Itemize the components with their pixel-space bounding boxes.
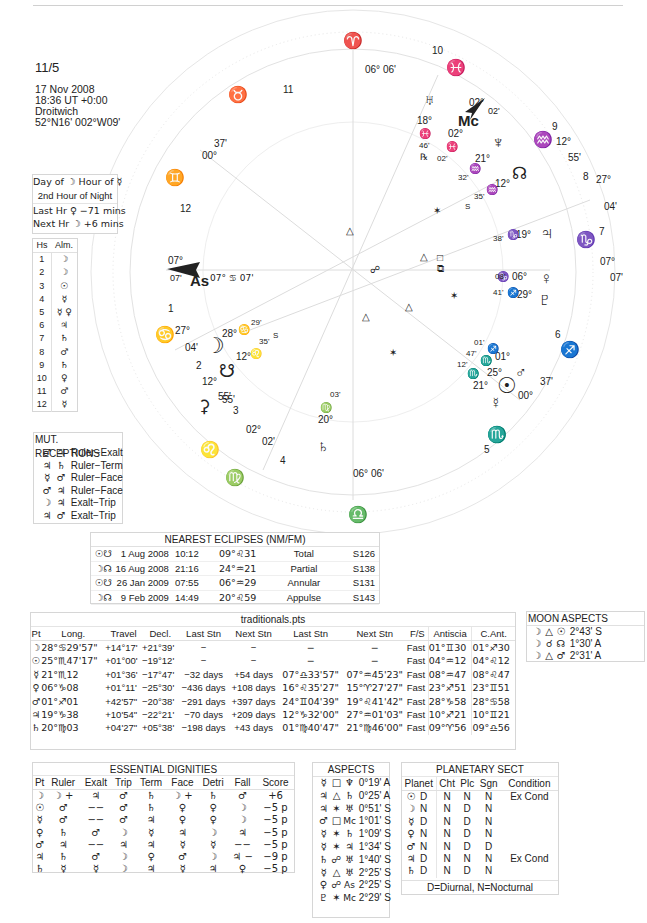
cell: N bbox=[436, 841, 458, 853]
svg-text:29°: 29° bbox=[517, 289, 532, 300]
svg-text:△: △ bbox=[346, 225, 354, 236]
moon-aspects-title: MOON ASPECTS bbox=[527, 612, 644, 626]
planet-glyph: ♃ bbox=[31, 708, 41, 721]
svg-text:35': 35' bbox=[259, 337, 270, 346]
cell: 10°♊21 bbox=[472, 708, 515, 721]
table-row: 2☽ bbox=[33, 266, 77, 279]
aspect-glyph: △ bbox=[543, 626, 555, 638]
aspect-orb: 2°25' S bbox=[359, 879, 391, 890]
aspect-glyph: □ bbox=[330, 777, 343, 790]
svg-text:00°: 00° bbox=[202, 150, 217, 161]
moon-aspects-panel: MOON ASPECTS ☽△☉ 2°43' S ☽☌☊ 1°30' A ☽△♂… bbox=[526, 611, 645, 662]
planet-glyph: ☿ bbox=[31, 668, 41, 681]
cell: ☽ bbox=[112, 827, 136, 839]
cell: +01°00' bbox=[105, 654, 142, 667]
svg-text:07°: 07° bbox=[168, 255, 183, 266]
svg-text:♒: ♒ bbox=[486, 183, 498, 196]
eclipses-title: NEAREST ECLIPSES (NM/FM) bbox=[91, 533, 379, 547]
eclipse-position: 20°♌59 bbox=[219, 590, 279, 605]
reception-type: Exalt−Trip bbox=[71, 510, 116, 521]
col-condition: Condition bbox=[501, 777, 558, 791]
svg-text:2: 2 bbox=[196, 360, 202, 371]
aspect-orb: 1°40' S bbox=[359, 854, 391, 865]
col-exalt: Exalt bbox=[80, 776, 111, 790]
cell: 15°♈27'27" bbox=[343, 681, 407, 694]
svg-text:♉: ♉ bbox=[228, 85, 248, 104]
svg-text:21°: 21° bbox=[473, 380, 488, 391]
svg-text:07° ♋ 07': 07° ♋ 07' bbox=[210, 273, 254, 283]
svg-text:7: 7 bbox=[599, 226, 605, 237]
cell: D bbox=[420, 865, 436, 877]
svg-text:♓: ♓ bbox=[419, 127, 431, 140]
planet-glyph: ♇ bbox=[317, 892, 330, 905]
svg-text:12°: 12° bbox=[236, 351, 251, 362]
svg-text:07': 07' bbox=[170, 273, 182, 283]
aspect-glyph: ☍ bbox=[330, 879, 343, 892]
cell: N bbox=[458, 791, 477, 804]
svg-text:21°: 21° bbox=[475, 153, 490, 164]
cell: N bbox=[477, 828, 501, 840]
col-term: Term bbox=[135, 776, 166, 790]
svg-text:✶: ✶ bbox=[389, 347, 397, 358]
table-row: ☉25°♏47'17"+01°00'−19°12'−−−−Fast04°♒120… bbox=[31, 654, 515, 667]
last-hour: Last Hr ♀ −71 mins bbox=[33, 203, 117, 217]
almuten-glyph: ♄ bbox=[51, 359, 77, 372]
svg-text:✶: ✶ bbox=[450, 290, 458, 301]
cell: N bbox=[436, 853, 458, 865]
cell: −32 days bbox=[179, 668, 229, 681]
svg-text:♇: ♇ bbox=[537, 288, 552, 310]
svg-text:△: △ bbox=[420, 251, 428, 262]
cell: D bbox=[458, 828, 477, 840]
cell: ♂ bbox=[112, 814, 136, 826]
table-row: ☿♂−−♂♃♀♀☽−5 p bbox=[33, 814, 294, 826]
planet-glyph: ♀ bbox=[402, 828, 420, 840]
table-row: 8♂ bbox=[33, 346, 77, 359]
cell: − bbox=[343, 654, 407, 667]
mutual-receptions-panel: MUT. RECEPTIONS ♂♃ Ruler−Exalt ♃♄ Ruler−… bbox=[33, 432, 123, 524]
list-item: ♄☍♅ 1°40' S bbox=[313, 854, 389, 867]
cell: −436 days bbox=[179, 681, 229, 694]
planet-glyph: ☿ bbox=[317, 828, 330, 841]
cell: D bbox=[458, 816, 477, 828]
cell: ♂ bbox=[46, 814, 80, 826]
planet-glyph: ♀ bbox=[31, 681, 41, 694]
aspect-glyph: ✶ bbox=[330, 828, 343, 841]
angle-label: Mc bbox=[343, 892, 356, 905]
svg-text:55': 55' bbox=[222, 394, 235, 405]
svg-text:♃: ♃ bbox=[540, 223, 554, 243]
svg-text:1: 1 bbox=[168, 303, 174, 314]
col-declination: Decl. bbox=[142, 627, 179, 641]
cell: 08°♌47 bbox=[472, 668, 515, 681]
svg-text:41': 41' bbox=[493, 288, 504, 297]
planet-glyph: ♃ bbox=[317, 803, 330, 816]
aspect-glyph: △ bbox=[330, 790, 343, 803]
svg-text:8: 8 bbox=[583, 171, 589, 182]
planet-glyph: ♂ bbox=[54, 510, 68, 523]
svg-text:♎: ♎ bbox=[348, 505, 368, 524]
svg-text:♄: ♄ bbox=[317, 437, 330, 456]
aspect-orb: 2°25' S bbox=[359, 867, 391, 878]
col-score: Score bbox=[257, 776, 294, 790]
col-next-station-days: Next Stn bbox=[229, 627, 279, 641]
sect-title: PLANETARY SECT bbox=[402, 763, 558, 777]
table-row: ☉ ☋ 1 Aug 2008 10:12 09°♌31 Total S126 bbox=[91, 547, 379, 561]
svg-text:01': 01' bbox=[474, 338, 485, 347]
planet-glyph: ♂ bbox=[40, 485, 54, 498]
svg-text:☿: ☿ bbox=[490, 394, 501, 411]
planet-glyph: ☽ bbox=[31, 641, 41, 655]
cell: +43 days bbox=[229, 721, 279, 734]
cell: ♀ bbox=[228, 863, 257, 875]
svg-text:12°: 12° bbox=[495, 178, 510, 189]
cell: N bbox=[420, 841, 436, 853]
col-longitude: Long. bbox=[41, 627, 105, 641]
col-fast-slow: F/S bbox=[407, 627, 429, 641]
cell: N bbox=[458, 853, 477, 865]
svg-text:♅: ♅ bbox=[424, 91, 435, 108]
svg-text:△: △ bbox=[405, 301, 413, 312]
score: −5 p bbox=[257, 814, 294, 826]
svg-text:♋: ♋ bbox=[238, 323, 250, 336]
saros-series: S138 bbox=[329, 561, 379, 576]
cell: ☽ bbox=[228, 814, 257, 826]
svg-text:07°: 07° bbox=[600, 256, 615, 267]
nearest-eclipses-panel: NEAREST ECLIPSES (NM/FM) ☉ ☋ 1 Aug 2008 … bbox=[90, 532, 380, 604]
